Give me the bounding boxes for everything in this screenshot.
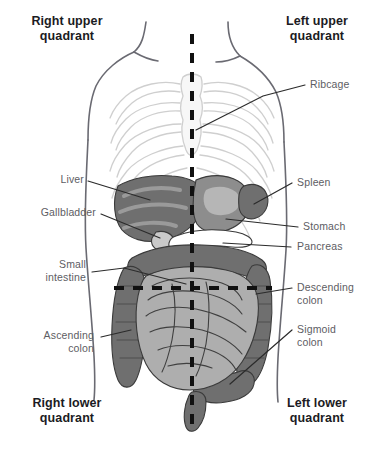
- quadrant-label-right-upper: Right upper quadrant: [8, 14, 126, 44]
- neck-left-outline: [134, 22, 146, 52]
- rib-r-1: [204, 83, 274, 119]
- organ-label-small-intestine: Small intestine: [20, 258, 86, 284]
- organ-label-pancreas: Pancreas: [297, 240, 379, 253]
- organ-label-ascending-colon: Ascending colon: [20, 329, 94, 355]
- organ-label-descending-colon: Descending colon: [297, 281, 381, 307]
- organ-label-ribcage: Ribcage: [310, 78, 382, 91]
- shoulder-left-outline: [88, 52, 134, 140]
- leader-ribcage: [196, 85, 305, 130]
- rectum: [184, 391, 206, 431]
- organ-label-stomach: Stomach: [303, 220, 381, 233]
- organ-label-gallbladder: Gallbladder: [14, 206, 96, 219]
- torso-left-outline: [85, 140, 95, 400]
- clavicle-left-fold: [134, 52, 158, 61]
- spleen: [239, 184, 268, 218]
- organ-label-spleen: Spleen: [297, 176, 375, 189]
- quadrant-label-left-upper: Left upper quadrant: [258, 14, 376, 44]
- rib-l-1: [110, 83, 180, 119]
- torso-right-outline: [277, 142, 287, 402]
- abdominal-quadrants-diagram: Right upper quadrant Left upper quadrant…: [0, 0, 383, 451]
- rib-l-2: [111, 103, 180, 143]
- organ-label-sigmoid-colon: Sigmoid colon: [297, 323, 377, 349]
- organ-label-liver: Liver: [20, 173, 84, 186]
- clavicle-right-fold: [216, 56, 240, 62]
- stomach-highlight: [204, 187, 240, 215]
- quadrant-label-right-lower: Right lower quadrant: [8, 396, 126, 426]
- quadrant-label-left-lower: Left lower quadrant: [258, 396, 376, 426]
- neck-right-outline: [228, 22, 240, 56]
